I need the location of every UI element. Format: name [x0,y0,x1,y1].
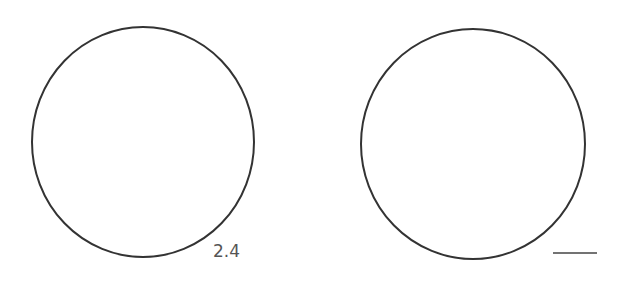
left-circle-label: 2.4 [213,241,240,261]
right-circle [361,29,585,259]
left-circle [32,27,254,257]
circles-diagram: 2.4 [0,0,625,285]
